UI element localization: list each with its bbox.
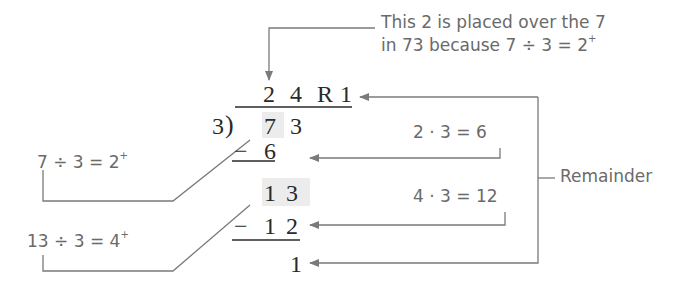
top-note-line-2-text: in 73 because 7 ÷ 3 = 2 (381, 35, 588, 55)
left-note-1-text: 7 ÷ 3 = 2 (37, 152, 120, 172)
right-note-2: 4 · 3 = 12 (413, 186, 498, 206)
remainder-label: Remainder (560, 166, 652, 186)
left-note-1: 7 ÷ 3 = 2+ (37, 152, 128, 172)
quotient-remainder: 1 (340, 82, 352, 106)
subtract-12: 1 2 (264, 214, 298, 238)
dividend-digit-7: 7 (264, 114, 276, 138)
left-note-1-sup: + (120, 150, 128, 161)
quotient-digit-2: 2 (263, 82, 275, 106)
minus-sign-2: − (234, 214, 248, 238)
quotient-digit-4: 4 (290, 82, 302, 106)
top-note-sup: + (588, 33, 596, 44)
division-bracket: ) (225, 112, 234, 138)
left-note-2: 13 ÷ 3 = 4+ (27, 231, 129, 251)
right-note-1: 2 · 3 = 6 (413, 122, 487, 142)
long-division-diagram: 2 4 R 1 3 ) 7 3 − 6 1 3 − 1 2 1 This 2 i… (0, 0, 690, 290)
divisor: 3 (212, 114, 224, 138)
left-note-2-sup: + (120, 229, 128, 240)
dividend-digit-3: 3 (290, 114, 302, 138)
final-remainder: 1 (290, 252, 302, 276)
quotient-r-label: R (317, 82, 333, 106)
top-note-line-2: in 73 because 7 ÷ 3 = 2+ (381, 35, 596, 55)
bring-down-13: 1 3 (264, 181, 298, 205)
subtract-6: 6 (264, 139, 276, 163)
left-note-2-text: 13 ÷ 3 = 4 (27, 231, 120, 251)
top-note-line-1: This 2 is placed over the 7 (381, 12, 606, 32)
minus-sign-1: − (234, 139, 248, 163)
